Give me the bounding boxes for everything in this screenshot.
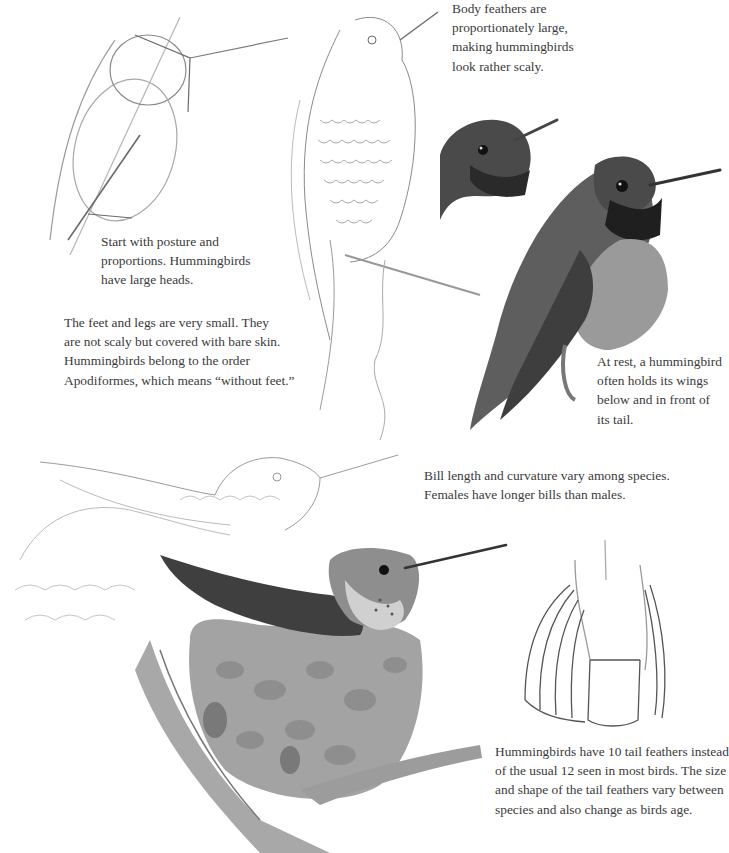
posture-sketch <box>50 17 288 255</box>
illustrated-page: Body feathers are proportionately large,… <box>0 0 729 853</box>
caption-body-feathers: Body feathers are proportionately large,… <box>452 0 574 76</box>
head-study <box>440 120 557 220</box>
caption-bill: Bill length and curvature vary among spe… <box>424 466 670 504</box>
caption-tail: Hummingbirds have 10 tail feathers inste… <box>495 742 729 819</box>
caption-feet: The feet and legs are very small. They a… <box>64 313 295 390</box>
tail-feathers-sketch <box>525 540 665 726</box>
caption-posture: Start with posture and proportions. Humm… <box>101 232 251 290</box>
caption-at-rest: At rest, a hummingbird often holds its w… <box>597 352 722 429</box>
scaly-feathers-sketch <box>291 12 480 440</box>
